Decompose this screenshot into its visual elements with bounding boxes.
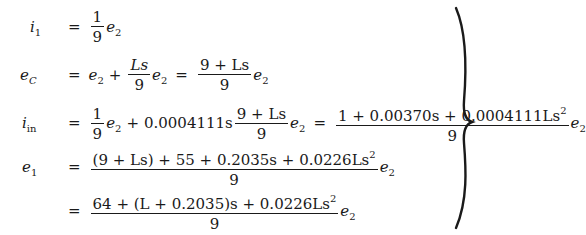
equation-eC: eC=e2+Ls9e2=9 + Ls9e2 [20,56,269,95]
subscript: 2 [262,75,268,86]
equals-sign: = [68,158,81,176]
fraction: Ls9 [128,56,150,95]
numerator: 1 [91,105,105,123]
subscript: C [29,75,37,86]
equals-sign: = [68,114,81,132]
plus-sign: + [109,66,122,84]
symbol: e [20,66,29,84]
equation-i1: i1=19e2 [30,8,121,47]
lhs-eC: eC [20,66,60,86]
symbol: e [106,114,115,132]
symbol: e [106,18,115,36]
numerator-text: 64 + (L + 0.2035)s + 0.0226Ls [93,195,330,213]
symbol: e [380,158,389,176]
fraction: 64 + (L + 0.2035)s + 0.0226Ls29 [91,190,339,234]
fraction: 19 [91,8,105,47]
numerator: 1 [91,8,105,26]
coefficient: 0.0004111s [144,114,233,132]
symbol: e [340,202,349,220]
subscript: 2 [161,75,167,86]
subscript: 2 [115,123,121,134]
subscript: 2 [579,123,585,134]
equals-sign: = [68,18,81,36]
fraction: 9 + Ls9 [235,105,288,144]
symbol: e [253,66,262,84]
fraction: 9 + Ls9 [198,56,251,95]
subscript: 2 [97,75,103,86]
equation-e1: e1=(9 + Ls) + 55 + 0.2035s + 0.0226Ls29e… [22,146,395,190]
equation-iin: iin=19e2+0.0004111s9 + Ls9e2=1 + 0.00370… [22,102,586,146]
numerator: 9 + Ls [235,105,288,123]
numerator: Ls [128,56,150,74]
lhs-iin: iin [22,114,60,134]
denominator: 9 [91,26,105,47]
symbol: e [152,66,161,84]
numerator: (9 + Ls) + 55 + 0.2035s + 0.0226Ls2 [91,146,378,169]
numerator: 64 + (L + 0.2035)s + 0.0226Ls2 [91,190,339,213]
denominator: 9 [91,213,339,234]
equals-sign: = [68,66,81,84]
equation-e1-simplified: =64 + (L + 0.2035)s + 0.0226Ls29e2 [60,190,356,234]
denominator: 9 [235,123,288,144]
superscript: 2 [560,105,566,116]
symbol: e [290,114,299,132]
subscript: 2 [349,211,355,222]
denominator: 9 [91,123,105,144]
denominator: 9 [91,169,378,190]
subscript: in [27,123,37,134]
fraction: 19 [91,105,105,144]
fraction: (9 + Ls) + 55 + 0.2035s + 0.0226Ls29 [91,146,378,190]
plus-sign: + [126,114,139,132]
subscript: 2 [389,167,395,178]
symbol: e [22,158,31,176]
subscript: 1 [35,27,41,38]
numerator: 9 + Ls [198,56,251,74]
equals-sign: = [68,202,81,220]
superscript: 2 [330,193,336,204]
equals-sign: = [313,114,326,132]
lhs-i1: i1 [30,18,60,38]
denominator: 9 [198,74,251,95]
subscript: 2 [299,123,305,134]
lhs-e1: e1 [22,158,60,178]
numerator-text: (9 + Ls) + 55 + 0.2035s + 0.0226Ls [93,151,370,169]
subscript: 1 [31,167,37,178]
right-brace-icon [448,6,488,230]
equals-sign: = [175,66,188,84]
superscript: 2 [369,149,375,160]
denominator: 9 [128,74,150,95]
subscript: 2 [115,27,121,38]
